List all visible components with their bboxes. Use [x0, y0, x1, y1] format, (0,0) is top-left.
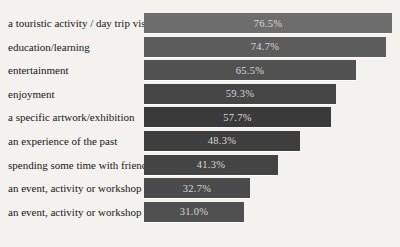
value-label: 59.3% — [226, 88, 255, 99]
chart-row: an event, activity or workshop31.0% — [0, 202, 400, 222]
category-label: an event, activity or workshop — [0, 202, 144, 222]
value-label: 41.3% — [197, 159, 226, 170]
value-label: 31.0% — [180, 206, 209, 217]
bar: 65.5% — [144, 60, 356, 81]
value-label: 65.5% — [236, 65, 265, 76]
bar-track: 65.5% — [144, 60, 396, 80]
value-label: 32.7% — [183, 183, 212, 194]
value-label: 57.7% — [223, 112, 252, 123]
bar: 59.3% — [144, 84, 336, 105]
chart-row: education/learning74.7% — [0, 37, 400, 57]
category-label: education/learning — [0, 37, 144, 57]
bar: 57.7% — [144, 107, 331, 128]
value-label: 48.3% — [208, 135, 237, 146]
bar-track: 32.7% — [144, 178, 396, 198]
chart-row: entertainment65.5% — [0, 60, 400, 80]
category-label: a specific artwork/exhibition — [0, 107, 144, 127]
bar-track: 48.3% — [144, 131, 396, 151]
chart-rows: a touristic activity / day trip visit76.… — [0, 13, 400, 222]
value-label: 76.5% — [254, 18, 283, 29]
chart-row: a touristic activity / day trip visit76.… — [0, 13, 400, 33]
chart-row: a specific artwork/exhibition57.7% — [0, 107, 400, 127]
bar: 74.7% — [144, 37, 386, 58]
category-label: enjoyment — [0, 84, 144, 104]
bar-track: 31.0% — [144, 202, 396, 222]
bar-track: 59.3% — [144, 84, 396, 104]
chart-row: enjoyment59.3% — [0, 84, 400, 104]
bar-track: 74.7% — [144, 37, 396, 57]
category-label: a touristic activity / day trip visit — [0, 13, 144, 33]
category-label: an event, activity or workshop — [0, 178, 144, 198]
bar: 31.0% — [144, 202, 244, 223]
category-label: an experience of the past — [0, 131, 144, 151]
bar-track: 41.3% — [144, 155, 396, 175]
value-label: 74.7% — [251, 41, 280, 52]
category-label: spending some time with friend/s — [0, 155, 144, 175]
bar: 76.5% — [144, 13, 392, 34]
chart-row: an experience of the past48.3% — [0, 131, 400, 151]
bar-track: 57.7% — [144, 107, 396, 127]
category-label: entertainment — [0, 60, 144, 80]
chart-row: spending some time with friend/s41.3% — [0, 155, 400, 175]
bar-chart: a touristic activity / day trip visit76.… — [0, 0, 400, 247]
bar: 32.7% — [144, 178, 250, 199]
chart-row: an event, activity or workshop32.7% — [0, 178, 400, 198]
bar: 41.3% — [144, 155, 278, 176]
bar: 48.3% — [144, 131, 300, 152]
bar-track: 76.5% — [144, 13, 396, 33]
